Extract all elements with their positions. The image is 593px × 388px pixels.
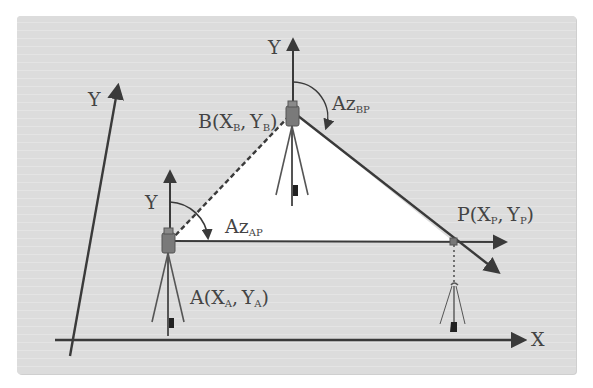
point-a-name: A — [190, 286, 204, 308]
point-p-name: P — [457, 203, 470, 225]
point-a-x-sub: A — [225, 298, 232, 309]
azimuth-bp-label: AzBP — [332, 94, 370, 115]
local-y-label-a: Y — [145, 193, 158, 212]
global-x-axis-label: X — [531, 330, 545, 349]
local-y-label-b: Y — [268, 38, 281, 57]
point-b-name: B — [198, 110, 212, 132]
point-p-label: P(XP, YP) — [457, 205, 534, 226]
point-a-y-sub: A — [254, 298, 261, 309]
azimuth-ap-base: Az — [225, 215, 249, 237]
point-a-label: A(XA, YA) — [190, 288, 269, 309]
azimuth-bp-sub: BP — [356, 104, 370, 115]
azimuth-ap-sub: AP — [249, 227, 263, 238]
azimuth-ap-label: AzAP — [225, 217, 263, 238]
azimuth-bp-base: Az — [332, 92, 356, 114]
diagram-canvas — [0, 0, 593, 388]
global-y-axis-label: Y — [88, 90, 101, 109]
point-p-y-sub: P — [520, 215, 527, 226]
point-p-x-sub: P — [491, 215, 498, 226]
point-b-x-sub: B — [233, 122, 240, 133]
point-b-y-sub: B — [263, 122, 270, 133]
point-b-label: B(XB, YB) — [198, 112, 277, 133]
